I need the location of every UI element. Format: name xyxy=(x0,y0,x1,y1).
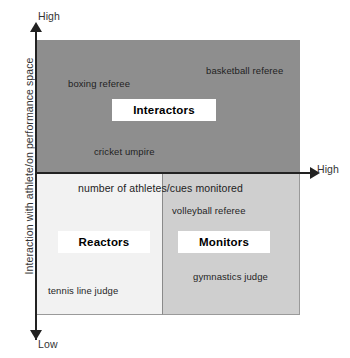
y-axis-line xyxy=(35,30,37,340)
role-label-gymnastics-judge: gymnastics judge xyxy=(193,271,268,282)
category-label-monitors: Monitors xyxy=(178,231,270,253)
y-axis-low-label: Low xyxy=(38,338,58,350)
x-axis-title: number of athletes/cues monitored xyxy=(78,182,243,194)
category-label-reactors: Reactors xyxy=(58,231,150,253)
y-axis-title: Interaction with athlete/on performance … xyxy=(23,51,35,281)
x-axis-high-label: High xyxy=(317,163,339,175)
role-label-cricket-umpire: cricket umpire xyxy=(94,146,155,157)
role-label-basketball-referee: basketball referee xyxy=(206,65,283,76)
role-label-boxing-referee: boxing referee xyxy=(68,78,130,89)
category-label-interactors: Interactors xyxy=(112,99,216,121)
x-axis-line xyxy=(36,172,313,174)
quadrant-diagram: High Low High Interaction with athlete/o… xyxy=(0,0,350,358)
role-label-volleyball-referee: volleyball referee xyxy=(172,205,246,216)
y-axis-up-arrow-icon xyxy=(30,22,42,32)
y-axis-high-label: High xyxy=(38,10,60,22)
role-label-tennis-line-judge: tennis line judge xyxy=(48,285,118,296)
